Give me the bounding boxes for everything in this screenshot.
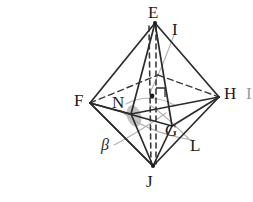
center-dot-icon — [150, 94, 155, 99]
vertex-label-I: I — [172, 21, 178, 38]
vertex-label-G: G — [165, 122, 177, 139]
geometry-figure: E I F H I N G L J β — [0, 0, 253, 202]
vertex-label-H: H — [224, 85, 236, 102]
edge-J-N — [131, 114, 153, 166]
vertex-label-L: L — [190, 137, 200, 154]
vertex-label-F: F — [74, 92, 83, 109]
base-dot-icon — [151, 164, 155, 168]
vertex-label-clipped: I — [246, 85, 252, 102]
right-angle-icon — [156, 88, 165, 97]
vertex-label-N: N — [112, 94, 124, 111]
vertex-label-E: E — [148, 4, 158, 21]
figure-canvas — [0, 0, 253, 202]
angle-label-beta: β — [101, 137, 109, 153]
vertex-label-J: J — [146, 173, 153, 190]
